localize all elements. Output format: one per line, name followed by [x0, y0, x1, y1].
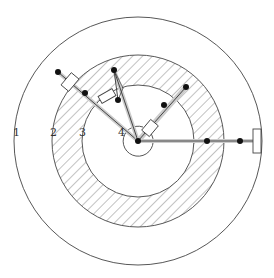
- joint: [55, 69, 61, 75]
- joint: [82, 90, 88, 96]
- joint: [237, 138, 243, 144]
- concentric-linkage-diagram: [0, 0, 274, 278]
- label-circle-2: 2: [50, 127, 57, 138]
- joint: [183, 84, 189, 90]
- joint: [115, 97, 121, 103]
- label-circle-3: 3: [79, 127, 86, 138]
- joint: [111, 67, 117, 73]
- joint: [161, 102, 167, 108]
- joint: [204, 138, 210, 144]
- label-circle-4: 4: [118, 127, 125, 138]
- joint-center: [135, 138, 141, 144]
- slider-block-right: [253, 129, 261, 153]
- label-circle-1: 1: [13, 127, 20, 138]
